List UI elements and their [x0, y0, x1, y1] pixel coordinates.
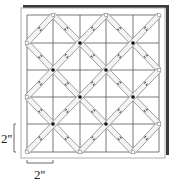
quilt-grid-diagram: [0, 0, 179, 196]
edge-vertex: [25, 95, 29, 99]
intersection-dot: [78, 41, 82, 45]
edge-vertex: [25, 150, 29, 154]
edge-vertex: [157, 122, 161, 126]
edge-vertex: [104, 13, 108, 17]
intersection-dot: [104, 122, 108, 126]
intersection-dot: [131, 41, 135, 45]
edge-vertex: [157, 68, 161, 72]
edge-vertex: [25, 41, 29, 45]
intersection-dot: [131, 95, 135, 99]
intersection-dot: [78, 95, 82, 99]
edge-vertex: [51, 13, 55, 17]
edge-vertex: [131, 150, 135, 154]
intersection-dot: [51, 68, 55, 72]
horizontal-dimension-bracket: [27, 160, 53, 163]
intersection-dot: [104, 68, 108, 72]
edge-vertex: [78, 150, 82, 154]
intersection-dot: [51, 122, 55, 126]
vertical-dimension-bracket: [14, 124, 16, 152]
vertical-dimension-label: 2'': [1, 132, 12, 145]
edge-vertex: [157, 13, 161, 17]
horizontal-dimension-label: 2'': [34, 168, 45, 181]
